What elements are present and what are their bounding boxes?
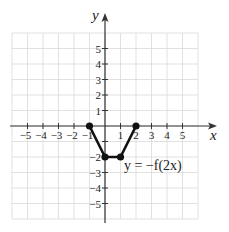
x-tick-label: −3 bbox=[51, 129, 63, 141]
function-graph: −5−4−3−2−112345−5−4−3−212345xyy = −f(2x) bbox=[0, 0, 229, 232]
x-tick-label: −2 bbox=[66, 129, 78, 141]
y-tick-label: −3 bbox=[89, 167, 101, 179]
data-point bbox=[101, 153, 108, 160]
y-tick-label: −2 bbox=[89, 151, 101, 163]
x-tick-label: 5 bbox=[180, 129, 186, 141]
y-tick-label: −5 bbox=[89, 198, 101, 210]
x-tick-label: 4 bbox=[164, 129, 170, 141]
curve-label: y = −f(2x) bbox=[124, 158, 182, 174]
x-tick-label: 2 bbox=[133, 129, 139, 141]
y-tick-label: 4 bbox=[96, 58, 102, 70]
y-tick-label: 5 bbox=[96, 43, 102, 55]
x-tick-label: 3 bbox=[149, 129, 155, 141]
y-tick-label: 1 bbox=[96, 105, 102, 117]
y-axis-label: y bbox=[90, 7, 99, 23]
x-axis-label: x bbox=[209, 127, 217, 143]
x-tick-label: −1 bbox=[82, 129, 94, 141]
x-tick-label: −4 bbox=[35, 129, 47, 141]
axes bbox=[10, 13, 217, 223]
y-tick-label: 2 bbox=[96, 89, 102, 101]
labels: −5−4−3−2−112345−5−4−3−212345xyy = −f(2x) bbox=[20, 7, 217, 210]
x-tick-label: −5 bbox=[20, 129, 32, 141]
y-tick-label: −4 bbox=[89, 182, 101, 194]
y-tick-label: 3 bbox=[96, 74, 102, 86]
x-tick-label: 1 bbox=[118, 129, 124, 141]
